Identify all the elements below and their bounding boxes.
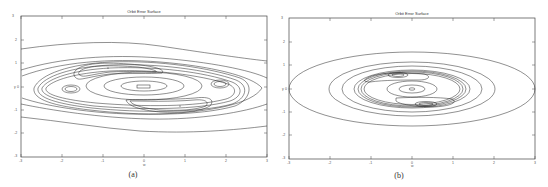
y-tick: -1 (14, 108, 17, 112)
x-tick: 3 (534, 161, 536, 165)
y-axis-label: y (14, 85, 16, 89)
x-axis-label: w (411, 164, 414, 168)
x-tick: -2 (328, 161, 331, 165)
plot-title: Orbit Error Surface (127, 9, 161, 14)
x-tick: 2 (225, 159, 227, 163)
y-tick: 3 (281, 16, 283, 20)
y-tick: -2 (14, 131, 17, 135)
contour-plot-a: Orbit Error Surface y 3 2 1 0 -1 -2 -3 -… (0, 0, 274, 187)
panel-caption: (b) (394, 171, 403, 180)
x-tick: -3 (287, 161, 290, 165)
y-tick: 3 (12, 14, 14, 18)
y-tick: -3 (282, 156, 285, 160)
y-tick: 1 (283, 63, 285, 67)
y-tick: -3 (14, 154, 17, 158)
y-axis-label: y (282, 87, 284, 91)
x-tick: -1 (369, 161, 372, 165)
x-tick: 3 (266, 159, 268, 163)
x-tick: 1 (184, 159, 186, 163)
y-tick: -2 (282, 133, 285, 137)
contour-plot-a-canvas (0, 0, 274, 187)
contour-plot-b: Orbit Error Surface y 3 2 1 0 -1 -2 -3 -… (274, 0, 548, 187)
x-tick: 1 (452, 161, 454, 165)
plot-title: Orbit Error Surface (395, 11, 429, 16)
x-tick: 2 (493, 161, 495, 165)
x-axis-label: w (143, 163, 146, 167)
panel-caption: (a) (129, 170, 138, 179)
y-tick: 1 (15, 61, 17, 65)
x-tick: -3 (19, 159, 22, 163)
y-tick: 0 (17, 85, 19, 89)
y-tick: 2 (15, 38, 17, 42)
x-tick: -1 (101, 159, 104, 163)
y-tick: -1 (282, 110, 285, 114)
y-tick: 2 (283, 40, 285, 44)
x-tick: -2 (60, 159, 63, 163)
y-tick: 0 (285, 87, 287, 91)
contour-plot-b-canvas (274, 0, 548, 187)
